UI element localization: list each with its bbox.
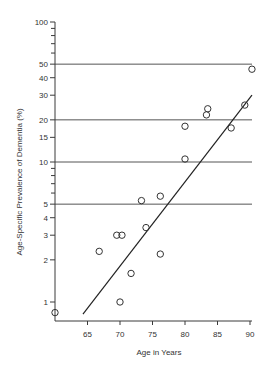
y-tick-label: 40 bbox=[39, 74, 48, 83]
data-point bbox=[228, 125, 234, 131]
data-point bbox=[182, 156, 188, 162]
y-tick-label: 3 bbox=[44, 231, 49, 240]
data-point bbox=[249, 66, 255, 72]
x-axis-title: Age in Years bbox=[137, 348, 182, 357]
y-tick-label: 15 bbox=[39, 133, 48, 142]
y-tick-label: 30 bbox=[39, 91, 48, 100]
x-tick-label: 65 bbox=[83, 330, 92, 339]
x-axis-ticks: 657075808590 bbox=[83, 321, 255, 339]
data-points bbox=[52, 66, 255, 316]
y-tick-label: 50 bbox=[39, 60, 48, 69]
data-point bbox=[138, 197, 144, 203]
y-tick-label: 2 bbox=[44, 256, 49, 265]
y-tick-label: 1 bbox=[44, 298, 49, 307]
data-point bbox=[157, 251, 163, 257]
y-tick-label: 10 bbox=[39, 158, 48, 167]
y-axis-title: Age-Specific Prevalence of Dementia (%) bbox=[15, 108, 24, 256]
x-tick-label: 85 bbox=[213, 330, 222, 339]
data-point bbox=[128, 270, 134, 276]
y-axis-ticks: 12345101520304050100 bbox=[35, 18, 55, 307]
x-tick-label: 80 bbox=[181, 330, 190, 339]
chart-canvas: 12345101520304050100 657075808590 Age in… bbox=[0, 0, 269, 372]
axes bbox=[55, 22, 252, 321]
x-tick-label: 90 bbox=[246, 330, 255, 339]
y-tick-label: 5 bbox=[44, 200, 49, 209]
data-point bbox=[157, 193, 163, 199]
y-tick-label: 100 bbox=[35, 18, 49, 27]
data-point bbox=[143, 224, 149, 230]
data-point bbox=[96, 248, 102, 254]
data-point bbox=[203, 112, 209, 118]
data-point bbox=[205, 106, 211, 112]
y-tick-label: 20 bbox=[39, 116, 48, 125]
y-tick-label: 4 bbox=[44, 214, 49, 223]
x-tick-label: 75 bbox=[148, 330, 157, 339]
data-point bbox=[117, 299, 123, 305]
data-point bbox=[182, 123, 188, 129]
x-tick-label: 70 bbox=[116, 330, 125, 339]
